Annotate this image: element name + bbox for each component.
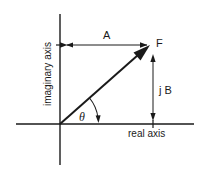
imaginary-axis-label: imaginary axis: [42, 42, 53, 106]
component-jb-arrowhead-down: [150, 113, 155, 121]
theta-label: θ: [79, 110, 85, 124]
phasor-arrowhead: [134, 45, 151, 61]
vector-f-label: F: [156, 37, 163, 49]
phasor-diagram: A F j B θ real axis imaginary axis: [0, 0, 203, 173]
component-a-arrowhead-left: [66, 42, 73, 47]
component-jb-arrowhead-up: [150, 54, 155, 62]
component-a-label: A: [103, 29, 111, 41]
theta-arc-arrowhead: [96, 115, 101, 123]
component-jb-label: j B: [158, 84, 172, 96]
phasor-vector-f: [60, 55, 138, 124]
theta-arc: [90, 98, 99, 118]
real-axis-label: real axis: [128, 128, 165, 139]
